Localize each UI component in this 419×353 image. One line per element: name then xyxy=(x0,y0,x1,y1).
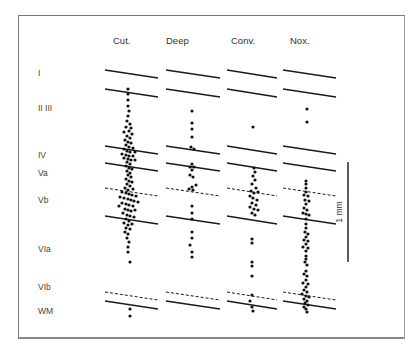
neuron-dot-cut xyxy=(125,169,128,172)
neuron-dot-conv xyxy=(249,189,252,192)
neuron-dot-cut xyxy=(130,222,133,225)
neuron-dot-cut xyxy=(127,154,130,157)
column-header-nox: Nox. xyxy=(290,35,310,46)
boundary-Va-Vb-nox xyxy=(283,188,336,196)
neuron-dot-cut xyxy=(126,98,129,101)
neuron-dot-nox xyxy=(304,307,307,310)
neuron-dot-conv xyxy=(248,194,251,197)
boundary-VIa-VIb-cut xyxy=(105,292,158,300)
neuron-dot-cut xyxy=(123,186,126,189)
neuron-dot-cut xyxy=(122,156,125,159)
boundary-I-II-cut xyxy=(105,89,158,97)
neuron-dot-deep xyxy=(190,135,193,138)
neuron-dot-nox xyxy=(305,263,308,266)
neuron-dot-conv xyxy=(250,305,253,308)
neuron-dot-conv xyxy=(250,211,253,214)
neuron-dot-deep xyxy=(190,162,193,165)
boundary-III-IV-conv xyxy=(227,146,277,154)
neuron-dot-conv xyxy=(252,166,255,169)
neuron-dot-conv xyxy=(251,196,254,199)
layer-label: Vb xyxy=(38,195,49,205)
neuron-dot-deep xyxy=(188,173,191,176)
neuron-dot-conv xyxy=(251,125,254,128)
neuron-dot-cut xyxy=(130,167,133,170)
layer-label: IV xyxy=(38,150,46,160)
neuron-dot-cut xyxy=(128,314,131,317)
neuron-dot-cut xyxy=(128,122,131,125)
neuron-dot-cut xyxy=(128,184,131,187)
boundary-I-II-deep xyxy=(166,89,220,97)
neuron-dot-cut xyxy=(125,160,128,163)
neuron-dot-conv xyxy=(250,274,253,277)
neuron-dot-deep xyxy=(190,236,193,239)
neuron-dot-cut xyxy=(125,182,128,185)
neuron-dot-cut xyxy=(133,150,136,153)
neuron-dot-conv xyxy=(250,264,253,267)
neuron-dot-cut xyxy=(129,209,132,212)
neuron-dot-cut xyxy=(123,207,126,210)
column-header-conv: Conv. xyxy=(231,35,255,46)
neuron-dot-cut xyxy=(130,193,133,196)
neuron-dot-cut xyxy=(124,217,127,220)
neuron-dot-conv xyxy=(250,237,253,240)
scale-bar: 1 mm xyxy=(334,162,348,262)
neuron-dot-deep xyxy=(190,109,193,112)
neuron-dot-nox xyxy=(303,198,306,201)
neuron-dot-nox xyxy=(304,269,307,272)
neuron-dot-cut xyxy=(126,104,129,107)
neuron-dot-nox xyxy=(302,238,305,241)
neuron-dot-nox xyxy=(305,274,308,277)
neuron-dot-cut xyxy=(130,132,133,135)
neuron-dot-cut xyxy=(134,194,137,197)
neuron-dot-cut xyxy=(124,226,127,229)
neuron-dot-conv xyxy=(250,260,253,263)
neuron-dot-cut xyxy=(126,208,129,211)
neuron-dot-cut xyxy=(127,240,130,243)
neuron-dot-cut xyxy=(131,187,134,190)
neuron-dot-deep xyxy=(188,243,191,246)
neuron-dot-nox xyxy=(307,295,310,298)
neuron-dot-cut xyxy=(126,87,129,90)
neuron-dot-nox xyxy=(302,206,305,209)
neuron-dot-cut xyxy=(126,250,129,253)
neuron-dot-nox xyxy=(304,294,307,297)
neuron-dot-cut xyxy=(117,204,120,207)
neuron-dot-conv xyxy=(253,178,256,181)
neuron-dot-nox xyxy=(300,292,303,295)
neuron-dot-cut xyxy=(129,175,132,178)
boundary-Vb-VIa-conv xyxy=(227,216,277,224)
neuron-dot-conv xyxy=(256,190,259,193)
neuron-dot-deep xyxy=(188,165,191,168)
neuron-dot-nox xyxy=(302,193,305,196)
neuron-dot-nox xyxy=(302,288,305,291)
neuron-dot-nox xyxy=(304,285,307,288)
neuron-dot-cut xyxy=(120,152,123,155)
layer-label: Va xyxy=(38,168,48,178)
neuron-dots xyxy=(117,87,310,317)
neuron-dot-cut xyxy=(132,199,135,202)
boundary-pia-nox xyxy=(283,70,336,78)
neuron-dot-nox xyxy=(303,301,306,304)
boundary-Vb-VIa-nox xyxy=(283,216,336,224)
neuron-dot-nox xyxy=(304,182,307,185)
neuron-dot-nox xyxy=(303,230,306,233)
boundary-VIb-WM-deep xyxy=(166,301,220,309)
neuron-dot-nox xyxy=(301,245,304,248)
neuron-dot-conv xyxy=(253,213,256,216)
neuron-dot-nox xyxy=(306,303,309,306)
neuron-dot-nox xyxy=(304,222,307,225)
neuron-dot-conv xyxy=(256,208,259,211)
layer-label: VIb xyxy=(38,282,51,292)
neuron-dot-cut xyxy=(128,307,131,310)
layer-label: II III xyxy=(38,103,52,113)
neuron-dot-nox xyxy=(304,179,307,182)
column-header-cut: Cut. xyxy=(113,35,130,46)
boundary-pia-cut xyxy=(105,70,158,78)
neuron-dot-cut xyxy=(124,143,127,146)
neuron-dot-cut xyxy=(126,157,129,160)
boundary-VIa-VIb-deep xyxy=(166,292,220,300)
neuron-dot-cut xyxy=(124,202,127,205)
layer-label: WM xyxy=(38,306,53,316)
neuron-dot-cut xyxy=(125,149,128,152)
neuron-dot-cut xyxy=(123,138,126,141)
